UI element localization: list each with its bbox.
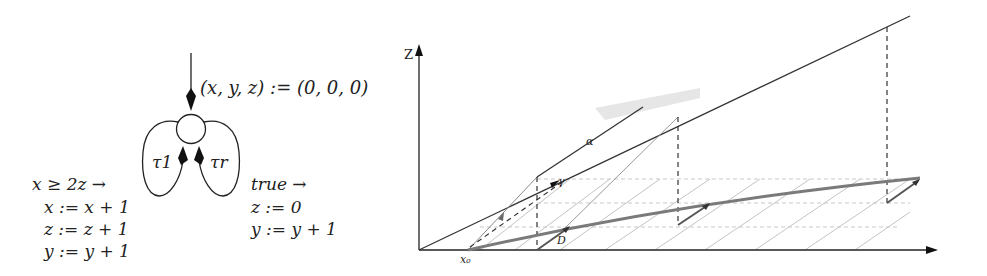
tau1-update-3: y := y + 1	[44, 242, 130, 261]
x0-label: x₀	[460, 253, 471, 266]
z-axis-arrowhead-icon	[415, 44, 423, 56]
alpha-label: α	[586, 135, 594, 148]
upper-bound-line	[419, 16, 910, 250]
geometric-plot-graphics: Z x₀ α γ D	[400, 0, 987, 276]
init-assignment-label: (x, y, z) := (0, 0, 0)	[200, 78, 368, 97]
taur-guard: true →	[251, 175, 307, 194]
taur-arrowhead-icon	[194, 146, 204, 165]
transition-system-diagram: (x, y, z) := (0, 0, 0) τ1 τr x ≥ 2z → x …	[0, 0, 400, 276]
tau1-arrowhead-icon	[178, 146, 188, 165]
tau1-update-1: x := x + 1	[44, 198, 130, 217]
tau1-label: τ1	[152, 153, 172, 172]
x-axis-arrowhead-icon	[926, 246, 938, 254]
taur-update-1: z := 0	[251, 198, 302, 217]
gamma-label: γ	[558, 175, 565, 188]
state-node	[177, 115, 206, 144]
init-arrowhead-icon	[186, 88, 196, 111]
taur-label: τr	[210, 153, 228, 172]
tau1-update-2: z := z + 1	[44, 220, 129, 239]
gamma-dashed-line	[470, 180, 565, 247]
d-label: D	[556, 234, 566, 247]
x0-edge-arrowhead-icon	[498, 212, 504, 221]
geometric-illustration: Z x₀ α γ D	[400, 0, 987, 276]
taur-update-2: y := y + 1	[251, 220, 337, 239]
z-axis-label: Z	[404, 47, 413, 62]
shaded-region	[595, 88, 700, 120]
tau1-guard: x ≥ 2z →	[32, 175, 106, 194]
